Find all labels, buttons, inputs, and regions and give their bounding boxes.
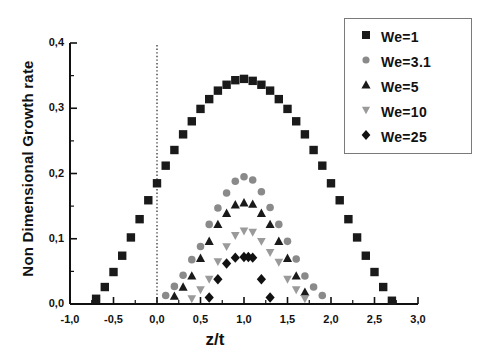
point-square [118, 252, 126, 260]
point-triangle-up [196, 254, 205, 262]
x-tick-label: 0,5 [188, 313, 214, 325]
point-circle [319, 292, 327, 300]
legend-item[interactable]: We=10 [345, 99, 471, 124]
point-circle [249, 176, 257, 184]
point-square [353, 233, 361, 241]
point-diamond [222, 258, 231, 268]
legend-marker-triangle-up [355, 77, 377, 97]
point-circle [301, 272, 309, 280]
point-triangle-up [205, 237, 214, 245]
point-diamond [362, 130, 371, 140]
point-square [162, 161, 170, 169]
point-square [283, 105, 291, 113]
point-circle [179, 272, 187, 280]
point-square [188, 117, 196, 125]
x-tick-label: 2,0 [318, 313, 344, 325]
point-diamond [257, 274, 266, 284]
legend-marker-circle [355, 52, 377, 72]
x-tick-label: 0,0 [144, 313, 170, 325]
y-tick-label: 0,3 [38, 101, 64, 113]
point-square [292, 117, 300, 125]
point-circle [266, 204, 274, 212]
x-tick-label: 2,5 [362, 313, 388, 325]
point-circle [284, 238, 292, 246]
point-square [196, 105, 204, 113]
point-square [135, 215, 143, 223]
point-square [344, 215, 352, 223]
legend-item[interactable]: We=5 [345, 74, 471, 99]
point-circle [232, 178, 240, 186]
legend-marker-square [355, 27, 377, 47]
point-triangle-up [266, 220, 275, 228]
point-triangle-down [362, 106, 370, 113]
point-square [362, 31, 370, 39]
x-tick-label: 3,0 [405, 313, 431, 325]
point-square [275, 95, 283, 103]
point-circle [197, 243, 205, 251]
legend-label: We=10 [381, 104, 427, 120]
point-square [249, 77, 257, 85]
legend-label: We=5 [381, 79, 419, 95]
x-tick-label: -0,5 [101, 313, 127, 325]
y-tick-label: 0,0 [38, 297, 64, 309]
point-diamond [266, 292, 275, 302]
point-triangle-down [274, 259, 283, 267]
point-triangle-down [257, 238, 266, 246]
point-square [327, 179, 335, 187]
legend-label: We=25 [381, 129, 427, 145]
legend-marker-triangle-down [355, 102, 377, 122]
point-circle [362, 56, 369, 63]
legend-label: We=3.1 [381, 54, 431, 70]
series-we-10 [187, 228, 309, 304]
point-square [127, 233, 135, 241]
point-triangle-down [196, 286, 205, 294]
y-axis-title: Non Dimensional Growth rate [19, 24, 36, 314]
point-diamond [213, 274, 222, 284]
point-triangle-down [214, 258, 223, 266]
point-square [336, 196, 344, 204]
point-square [214, 86, 222, 94]
point-square [144, 196, 152, 204]
point-triangle-down [292, 286, 301, 294]
y-tick-label: 0,1 [38, 232, 64, 244]
point-triangle-down [301, 295, 310, 303]
point-circle [292, 255, 300, 263]
point-triangle-up [170, 291, 179, 299]
point-circle [258, 188, 266, 196]
point-diamond [231, 252, 240, 262]
point-circle [188, 256, 196, 264]
point-square [257, 81, 265, 89]
point-triangle-up [231, 200, 240, 208]
point-triangle-down [205, 276, 214, 284]
legend-item[interactable]: We=1 [345, 24, 471, 49]
legend-item[interactable]: We=25 [345, 124, 471, 149]
point-square [109, 268, 117, 276]
point-square [153, 179, 161, 187]
y-tick-label: 0,2 [38, 167, 64, 179]
point-triangle-up [179, 282, 188, 290]
legend-label: We=1 [381, 29, 419, 45]
series-we-5 [170, 198, 310, 300]
point-diamond [205, 292, 214, 302]
point-triangle-down [222, 243, 231, 251]
point-triangle-up [248, 199, 257, 207]
point-circle [205, 221, 213, 229]
point-square [362, 252, 370, 260]
point-square [170, 146, 178, 154]
x-tick-label: -1,0 [57, 313, 83, 325]
x-tick-label: 1,0 [231, 313, 257, 325]
point-square [240, 75, 248, 83]
figure-container: Non Dimensional Growth rate z/t -1,0-0,5… [0, 0, 486, 362]
point-triangle-up [292, 271, 301, 279]
point-square [92, 295, 100, 303]
point-square [318, 161, 326, 169]
point-triangle-down [283, 276, 292, 284]
point-triangle-down [248, 229, 257, 237]
y-tick-label: 0,4 [38, 36, 64, 48]
point-square [205, 95, 213, 103]
point-triangle-up [187, 271, 196, 279]
point-circle [162, 292, 170, 300]
point-circle [223, 189, 231, 197]
legend-item[interactable]: We=3.1 [345, 49, 471, 74]
point-triangle-down [231, 232, 240, 240]
